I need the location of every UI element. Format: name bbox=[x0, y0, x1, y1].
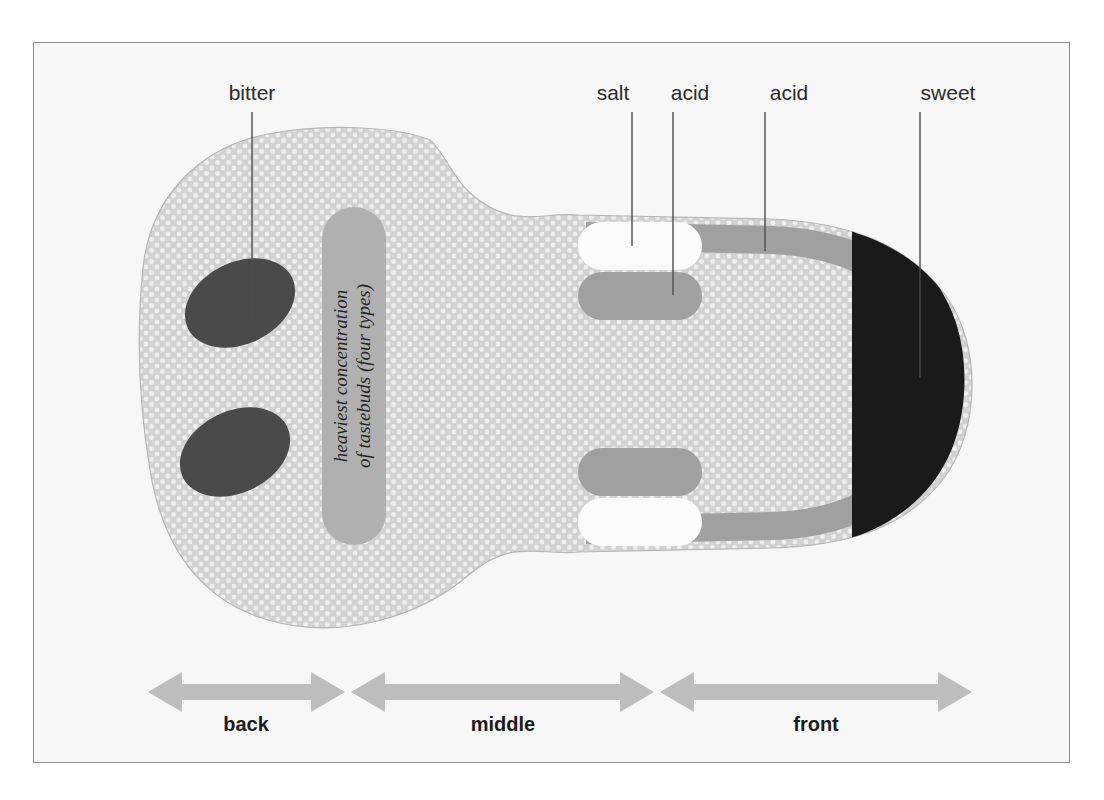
callout-label-acid-upper: acid bbox=[671, 81, 710, 104]
callout-label-bitter: bitter bbox=[229, 81, 276, 104]
callout-label-sweet: sweet bbox=[921, 81, 976, 104]
callout-label-acid-rim: acid bbox=[770, 81, 809, 104]
zone-arrows-group: back middle front bbox=[148, 672, 972, 735]
concentration-band[interactable]: heaviest concentration of tastebuds (fou… bbox=[322, 207, 386, 545]
zone-arrow-front[interactable]: front bbox=[660, 672, 972, 735]
zone-label-front: front bbox=[793, 713, 839, 735]
callout-label-salt: salt bbox=[597, 81, 630, 104]
acid-bar-upper[interactable] bbox=[578, 272, 702, 320]
sweet-tip[interactable] bbox=[852, 224, 965, 538]
salt-bar-lower[interactable] bbox=[578, 498, 702, 546]
zone-arrow-back[interactable]: back bbox=[148, 672, 345, 735]
double-arrow-middle bbox=[351, 672, 654, 712]
double-arrow-back bbox=[148, 672, 345, 712]
concentration-text-line-1: heaviest concentration bbox=[330, 290, 351, 463]
zone-arrow-middle[interactable]: middle bbox=[351, 672, 654, 735]
tongue-taste-map: heaviest concentration of tastebuds (fou… bbox=[0, 0, 1104, 800]
tongue-body bbox=[139, 127, 972, 627]
diagram-canvas: heaviest concentration of tastebuds (fou… bbox=[0, 0, 1104, 800]
acid-bar-lower[interactable] bbox=[578, 448, 702, 496]
salt-bar-upper[interactable] bbox=[578, 222, 702, 270]
concentration-text-line-2: of tastebuds (four types) bbox=[353, 284, 375, 468]
double-arrow-front bbox=[660, 672, 972, 712]
zone-label-middle: middle bbox=[471, 713, 535, 735]
zone-label-back: back bbox=[223, 713, 269, 735]
